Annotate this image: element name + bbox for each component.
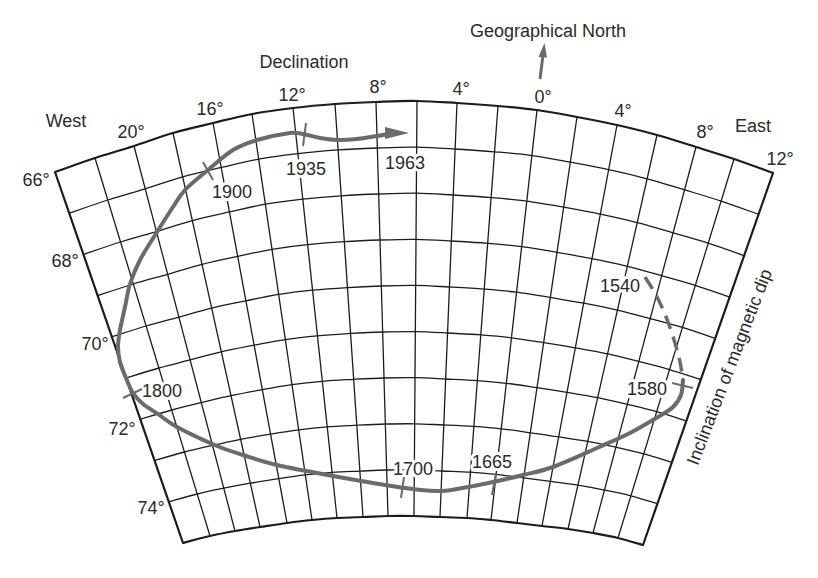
declination-tick: 12° (278, 85, 305, 105)
declination-grid-line (134, 146, 235, 531)
inclination-ticks: 66° 68° 70° 72° 74° (22, 170, 164, 518)
year-label-1580: 1580 (627, 379, 667, 399)
year-label-1900: 1900 (212, 182, 252, 202)
declination-tick: 4° (452, 79, 469, 99)
inclination-grid-line (140, 378, 686, 421)
declination-tick: 0° (534, 87, 551, 107)
north-arrow-shaft (540, 55, 543, 79)
inclination-tick: 68° (51, 251, 78, 271)
declination-tick: 16° (196, 99, 223, 119)
north-arrow-icon (539, 43, 548, 79)
geographical-north-label: Geographical North (470, 21, 626, 41)
declination-grid-line (440, 103, 457, 517)
year-label-1700: 1700 (393, 459, 433, 479)
inclination-tick: 66° (22, 170, 49, 190)
declination-grid-line (335, 104, 363, 517)
north-arrow-head-icon (539, 43, 548, 58)
declination-axis-title: Declination (259, 52, 348, 72)
east-label: East (735, 116, 771, 136)
year-label-1540: 1540 (600, 276, 640, 296)
grid-border-arc (183, 516, 643, 545)
secular-variation-path (118, 133, 683, 491)
declination-tick: 12° (766, 149, 793, 169)
declination-grid-line (593, 147, 696, 533)
year-label-1665: 1665 (472, 452, 512, 472)
declination-tick: 8° (369, 77, 386, 97)
inclination-grid-line (83, 193, 744, 256)
inclination-tick: 74° (137, 498, 164, 518)
grid-border-side (643, 173, 773, 545)
year-labels: 1540 1580 1665 1700 1800 1900 1935 1963 (142, 153, 667, 479)
declination-tick: 8° (696, 122, 713, 142)
declination-tick: 4° (614, 101, 631, 121)
path-arrowhead-icon (385, 127, 409, 139)
secular-variation-diagram: Geographical North Declination West East… (0, 0, 818, 578)
declination-grid-line (568, 135, 657, 529)
inclination-grid-line (126, 332, 701, 380)
year-label-1963: 1963 (385, 153, 425, 173)
year-label-1935: 1935 (286, 159, 326, 179)
inclination-grid-line (155, 424, 672, 463)
declination-tick: 20° (117, 122, 144, 142)
west-label: West (46, 111, 87, 131)
year-label-1800: 1800 (142, 381, 182, 401)
inclination-tick: 72° (108, 419, 135, 439)
inclination-tick: 70° (81, 334, 108, 354)
